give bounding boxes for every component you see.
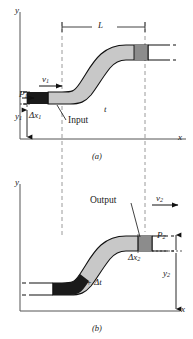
height-label-y2: y2 xyxy=(163,269,170,278)
velocity-label-v1: v1 xyxy=(42,75,49,84)
axis-label-y-a: y xyxy=(15,6,19,15)
time-label-b: t + Δt xyxy=(81,278,102,287)
axis-label-y-b: y xyxy=(15,178,19,187)
pressure-label-p2: P2 xyxy=(157,231,166,240)
height-label-y1: y1 xyxy=(15,112,22,121)
panel-caption-a: (a) xyxy=(92,152,102,161)
delta-x-label-2: Δx2 xyxy=(128,253,140,262)
fluid-tube-a xyxy=(48,45,148,104)
pressure-label-p1: P1 xyxy=(19,90,28,99)
panel-caption-b: (b) xyxy=(92,324,102,333)
output-label: Output xyxy=(90,196,116,206)
bernoulli-flow-figure: y x L v1 P1 y1 Δx1 t Input (a) y x Outpu… xyxy=(0,0,193,339)
output-plug-b xyxy=(138,236,152,251)
length-dimension-L xyxy=(62,22,145,32)
axis-label-x-a: x xyxy=(178,133,182,142)
height-dimension-y2 xyxy=(152,251,182,309)
length-label-L: L xyxy=(98,21,103,30)
axis-label-x-b: x xyxy=(181,305,185,314)
time-label-a: t xyxy=(104,105,107,114)
panel-a xyxy=(20,12,186,165)
figure-svg xyxy=(0,0,193,339)
input-label: Input xyxy=(68,116,88,126)
output-plug-a xyxy=(134,45,148,60)
velocity-label-v2: v2 xyxy=(156,194,163,203)
output-leader-line xyxy=(131,203,140,237)
delta-x-label-1: Δx1 xyxy=(29,111,41,120)
